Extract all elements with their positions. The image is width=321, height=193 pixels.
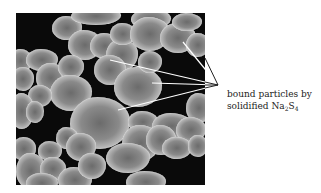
particle (138, 51, 162, 73)
particle (186, 33, 205, 57)
particle (126, 171, 166, 185)
particle (172, 13, 202, 31)
particle (114, 67, 162, 107)
particle (188, 135, 205, 157)
callout-label: bound particles by solidified Na2S4 (227, 88, 312, 112)
label-line-1: bound particles by (227, 88, 312, 100)
particle (106, 143, 150, 173)
particle (26, 101, 44, 123)
label-line-2: solidified Na2S4 (227, 100, 312, 112)
particle (78, 153, 106, 179)
sem-micrograph (16, 13, 205, 185)
